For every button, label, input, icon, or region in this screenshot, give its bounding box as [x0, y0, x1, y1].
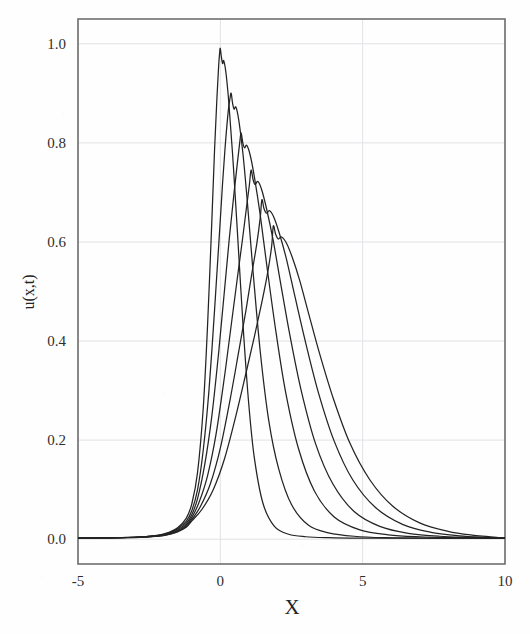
figure-container: -50510 0.00.20.40.60.81.0 X u(x,t)	[0, 0, 530, 634]
y-tick-label-5: 1.0	[47, 36, 66, 52]
curve-t5	[78, 200, 505, 539]
y-tick-label-1: 0.2	[47, 432, 66, 448]
y-axis-title: u(x,t)	[20, 274, 38, 309]
plot-frame	[78, 19, 505, 564]
x-tick-label-0: -5	[72, 573, 85, 589]
y-tick-label-3: 0.6	[47, 234, 66, 250]
curve-group	[78, 48, 505, 538]
x-tick-label-1: 0	[217, 573, 225, 589]
y-tick-label-0: 0.0	[47, 531, 66, 547]
curve-t3	[78, 133, 505, 538]
x-tick-label-2: 5	[359, 573, 367, 589]
curve-t4	[78, 170, 505, 538]
x-tick-label-3: 10	[498, 573, 513, 589]
curve-t2	[78, 93, 505, 538]
x-tick-labels: -50510	[72, 573, 513, 589]
curve-t6	[78, 226, 505, 539]
axes-frame	[78, 19, 505, 564]
y-tick-label-2: 0.4	[47, 333, 66, 349]
y-tick-labels: 0.00.20.40.60.81.0	[47, 36, 66, 547]
curve-t1	[78, 48, 505, 538]
y-tick-label-4: 0.8	[47, 135, 66, 151]
grid-lines	[78, 19, 505, 564]
x-axis-title: X	[284, 595, 299, 619]
line-chart: -50510 0.00.20.40.60.81.0 X u(x,t)	[0, 0, 530, 634]
